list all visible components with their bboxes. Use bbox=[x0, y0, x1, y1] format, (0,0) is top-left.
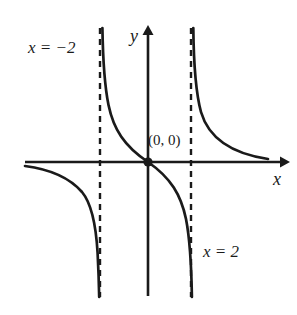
y-axis-label: y bbox=[130, 27, 138, 45]
asymptote-label-left: x = −2 bbox=[28, 39, 76, 56]
function-graph-figure: x = −2 x = 2 y x (0, 0) bbox=[0, 0, 297, 315]
y-axis-arrowhead bbox=[143, 25, 154, 35]
x-axis-arrowhead bbox=[280, 157, 290, 168]
asymptote-label-right: x = 2 bbox=[203, 243, 239, 260]
curve-branch-middle-upper bbox=[102, 28, 148, 162]
curve-branch-middle-lower bbox=[148, 162, 192, 297]
curve-branch-right bbox=[193, 28, 268, 159]
origin-point-marker bbox=[143, 157, 152, 166]
x-axis bbox=[25, 157, 290, 168]
origin-point-label: (0, 0) bbox=[148, 133, 181, 148]
x-axis-label: x bbox=[273, 170, 281, 188]
curve-branch-left bbox=[25, 166, 99, 297]
